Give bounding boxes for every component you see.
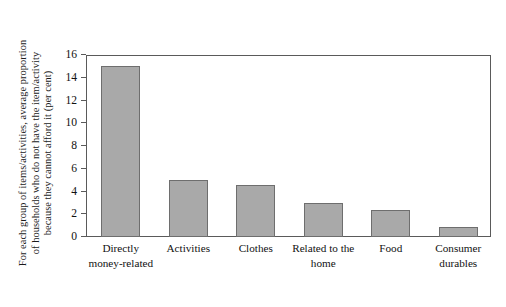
y-axis-tick: 14 [0, 71, 86, 85]
y-axis-tick: 16 [0, 48, 86, 62]
y-axis-tick-label: 12 [17, 94, 77, 108]
bar [236, 185, 275, 237]
x-axis-tick-labels: Directly money-relatedActivitiesClothesR… [86, 241, 491, 287]
y-axis-tick-label: 6 [17, 162, 77, 176]
y-axis-tick: 6 [0, 162, 86, 176]
y-axis-tick-label: 8 [17, 139, 77, 153]
y-axis-tick: 0 [0, 230, 86, 244]
y-axis-tick-label: 14 [17, 71, 77, 85]
bar [371, 210, 410, 237]
bar [439, 227, 478, 237]
y-axis-tick-label: 10 [17, 116, 77, 130]
x-axis-tick-label: Consumer durables [416, 241, 502, 270]
y-axis-tick-label: 0 [17, 230, 77, 244]
bar-chart-figure: For each group of items/activities, aver… [0, 0, 506, 307]
y-axis-tick-label: 2 [17, 207, 77, 221]
y-axis-tick: 12 [0, 94, 86, 108]
bar [304, 203, 343, 237]
y-axis-tick-label: 4 [17, 185, 77, 199]
y-axis-tick: 10 [0, 116, 86, 130]
bar [101, 66, 140, 237]
bar [169, 180, 208, 237]
y-axis-tick: 8 [0, 139, 86, 153]
y-axis-tick: 2 [0, 207, 86, 221]
y-axis-tick: 4 [0, 185, 86, 199]
y-axis-ticks: 1614121086420 [0, 0, 86, 307]
y-axis-tick-label: 16 [17, 48, 77, 62]
bar-series [86, 55, 491, 237]
